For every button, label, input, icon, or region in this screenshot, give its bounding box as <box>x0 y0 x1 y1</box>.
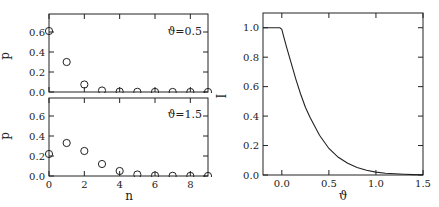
annotation-theta-0-5: ϑ=0.5 <box>167 25 202 38</box>
data-point-marker <box>81 147 88 154</box>
data-point-marker <box>98 87 105 94</box>
x-tick-label: 4 <box>116 179 122 190</box>
plot-frame <box>263 13 423 175</box>
y-tick-label: 0.4 <box>29 131 45 142</box>
data-points <box>45 139 211 179</box>
x-tick-label: 1.0 <box>368 178 384 189</box>
x-tick-label: 0.0 <box>274 178 290 189</box>
y-tick-label: 0.2 <box>243 140 259 151</box>
x-axis-label-right: ϑ <box>339 189 348 203</box>
y-tick-label: 0.0 <box>29 87 45 98</box>
x-tick-label: 6 <box>152 179 158 190</box>
data-line <box>263 28 423 175</box>
x-tick-label: 0 <box>46 179 52 190</box>
y-tick-label: 0.2 <box>29 67 45 78</box>
figure: 0.00.20.40.6 024680.00.20.40.6 0.00.51.0… <box>0 0 439 207</box>
x-axis-label-bottom-left: n <box>125 189 133 203</box>
y-axis-label-top-left: p <box>0 52 12 60</box>
y-tick-label: 0.2 <box>29 151 45 162</box>
y-tick-label: 0.6 <box>29 27 45 38</box>
y-tick-label: 0.8 <box>243 52 259 63</box>
x-tick-label: 0.5 <box>321 178 337 189</box>
data-point-marker <box>63 139 70 146</box>
data-point-marker <box>134 171 141 178</box>
y-axis-label-right: I <box>215 93 229 98</box>
y-tick-label: 1.0 <box>243 22 259 33</box>
y-tick-label: 0.6 <box>243 81 259 92</box>
y-tick-label: 0.4 <box>243 111 259 122</box>
annotation-theta-1-5: ϑ=1.5 <box>167 108 202 121</box>
data-point-marker <box>63 58 70 65</box>
y-tick-label: 0.6 <box>29 111 45 122</box>
panel-right-intensity-vs-theta: 0.00.51.01.50.00.20.40.60.81.0 <box>243 13 431 189</box>
y-tick-label: 0.4 <box>29 47 45 58</box>
data-point-marker <box>98 160 105 167</box>
x-tick-label: 2 <box>81 179 87 190</box>
x-tick-label: 8 <box>187 179 193 190</box>
x-tick-label: 1.5 <box>415 178 431 189</box>
y-axis-label-bottom-left: p <box>0 132 12 140</box>
y-tick-label: 0.0 <box>243 170 259 181</box>
y-tick-label: 0.0 <box>29 171 45 182</box>
